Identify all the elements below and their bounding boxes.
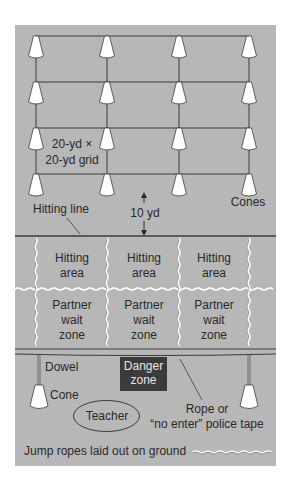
svg-text:Hitting: Hitting [127,251,161,265]
grid-size-label-line2: 20-yd grid [45,153,98,167]
batting-station-diagram: 20-yd × 20-yd grid Cones 10 yd Hitting l… [0,0,291,483]
dowel-label: Dowel [45,360,78,374]
hitting-area-3: Hitting area [197,251,231,280]
cones-label: Cones [231,195,266,209]
teacher-label: Teacher [86,409,129,423]
cone-label: Cone [50,388,79,402]
svg-text:zone: zone [201,328,227,342]
svg-text:area: area [132,266,156,280]
hitting-area-2: Hitting area [127,251,161,280]
svg-text:area: area [202,266,226,280]
svg-text:wait: wait [60,313,83,327]
rope-label-line1: Rope or [186,402,229,416]
svg-text:zone: zone [131,328,157,342]
svg-text:Partner: Partner [124,298,163,312]
svg-text:wait: wait [132,313,155,327]
rope-label-line2: “no enter” police tape [150,417,264,431]
svg-text:Partner: Partner [52,298,91,312]
svg-text:wait: wait [202,313,225,327]
svg-text:Hitting: Hitting [197,251,231,265]
grid-size-label-line1: 20-yd × [52,137,92,151]
danger-zone-label-line1: Danger [124,359,163,373]
svg-text:Partner: Partner [194,298,233,312]
hitting-area-1: Hitting area [55,251,89,280]
jump-ropes-legend-label: Jump ropes laid out on ground [24,444,186,458]
distance-label: 10 yd [130,206,159,220]
danger-zone-label-line2: zone [130,373,156,387]
hitting-line-label: Hitting line [33,202,89,216]
svg-text:zone: zone [59,328,85,342]
svg-text:area: area [60,266,84,280]
svg-text:Hitting: Hitting [55,251,89,265]
